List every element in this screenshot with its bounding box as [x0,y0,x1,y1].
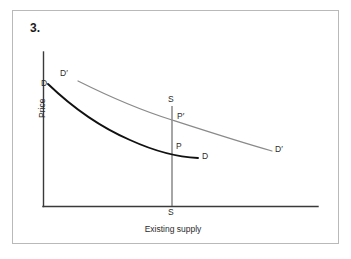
supply-label-top: S [168,95,174,104]
curve-label-d-prime-left: D′ [60,69,68,78]
plot-canvas [0,0,351,259]
supply-label-bottom: S [168,208,174,217]
curve-label-d-prime-right: D′ [275,145,283,154]
curve-label-d-left: D [41,79,47,88]
curve-label-d-right: D [202,152,208,161]
y-axis-title: Price [38,88,47,128]
price-label-p-prime: P′ [177,112,184,121]
price-label-p: P [176,142,182,151]
x-axis-title: Existing supply [113,225,233,234]
figure-root: 3. Price Existing supply D D′ S P′ P D D… [0,0,351,259]
demand-curve-d-prime [78,81,272,151]
